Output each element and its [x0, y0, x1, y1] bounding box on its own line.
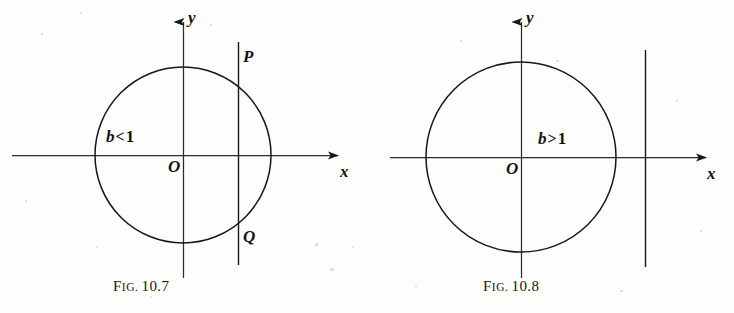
annotation-b-less-than-one: b<1 — [106, 128, 134, 145]
figures-canvas — [0, 0, 734, 313]
figure-caption-10-8: FIG.10.8 — [483, 277, 539, 295]
annotation-value-right: 1 — [558, 129, 567, 148]
caption-prefix-right: F — [483, 278, 492, 294]
origin-label-left: O — [168, 158, 180, 175]
x-axis-label-left: x — [340, 163, 349, 180]
point-label-q: Q — [243, 228, 255, 245]
annotation-b-greater-than-one: b>1 — [538, 130, 566, 147]
y-axis-label-right: y — [526, 9, 534, 26]
caption-smallcaps-right: IG. — [492, 281, 509, 293]
caption-prefix-left: F — [113, 278, 122, 294]
figure-10-8-group — [390, 22, 706, 278]
annotation-variable-right: b — [538, 129, 547, 148]
caption-number-left: 10.7 — [142, 278, 170, 294]
y-axis-label-left: y — [188, 9, 196, 26]
figure-caption-10-7: FIG.10.7 — [113, 277, 169, 295]
caption-smallcaps-left: IG. — [122, 281, 139, 293]
figure-page: y x O P Q b<1 y x O b>1 FIG.10.7 FIG.10.… — [0, 0, 734, 313]
origin-label-right: O — [506, 160, 518, 177]
annotation-operator-left: < — [115, 128, 126, 145]
caption-number-right: 10.8 — [512, 278, 540, 294]
annotation-value-left: 1 — [126, 127, 135, 146]
x-axis-label-right: x — [707, 165, 716, 182]
annotation-variable-left: b — [106, 127, 115, 146]
figure-10-7-group — [12, 22, 338, 278]
annotation-operator-right: > — [547, 130, 558, 147]
point-label-p: P — [243, 48, 253, 65]
